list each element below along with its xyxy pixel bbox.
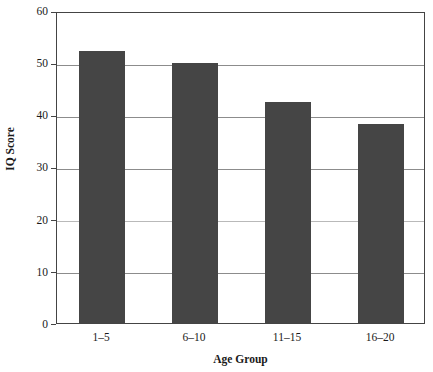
y-axis-title: IQ Score <box>4 109 16 189</box>
plot-area <box>56 12 425 324</box>
bar-6-10 <box>172 63 218 323</box>
x-tick-label-6-10: 6–10 <box>183 331 206 344</box>
x-axis-title: Age Group <box>56 353 425 365</box>
y-tick-label-60: 60 <box>37 6 49 18</box>
plot-inner <box>57 13 424 323</box>
x-tick-label-16-20: 16–20 <box>366 331 395 344</box>
bar-11-15 <box>265 102 311 324</box>
y-tick-label-50: 50 <box>37 58 49 70</box>
y-tick-label-40: 40 <box>37 110 49 122</box>
bar-1-5 <box>79 51 125 324</box>
y-tick-label-0: 0 <box>42 319 48 331</box>
y-tick-label-30: 30 <box>37 162 49 174</box>
y-tick-label-10: 10 <box>37 267 49 279</box>
x-tick-label-11-15: 11–15 <box>273 331 301 344</box>
y-tick-label-20: 20 <box>37 215 49 227</box>
x-tick-label-1-5: 1–5 <box>92 331 109 344</box>
y-tick-mark-0 <box>51 324 56 325</box>
bar-16-20 <box>358 124 404 323</box>
x-axis: 1–5 6–10 11–15 16–20 <box>56 331 425 349</box>
bar-chart: 60 50 40 30 20 10 0 IQ Score 1–5 <box>0 0 433 372</box>
